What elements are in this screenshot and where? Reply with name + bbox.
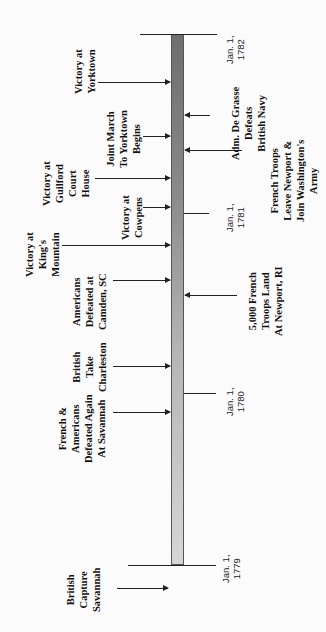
tick-label-1780: Jan. 1, 1780 — [224, 387, 246, 416]
tick-1782-line — [140, 34, 217, 35]
arrow-guilford — [95, 178, 170, 179]
arrow-kings-mountain — [62, 245, 170, 246]
arrow-camden — [113, 280, 170, 281]
event-joint-march: Joint March To Yorktown Begins — [104, 110, 143, 168]
arrow-de-grasse — [185, 115, 210, 116]
timeline-bar — [171, 34, 184, 565]
event-charleston: British Take Charleston — [70, 342, 109, 392]
event-victory-guilford: Victory at Guilford Court House — [40, 161, 92, 206]
event-savannah-again: French & Americans Defeated Again At Sav… — [56, 394, 108, 463]
arrow-capture-savannah — [117, 588, 168, 589]
event-camden: Americans Defeated at Camden, SC — [70, 273, 109, 330]
arrow-joint-march — [143, 136, 170, 137]
arrow-yorktown — [98, 82, 170, 83]
event-capture-savannah: British Capture Savannah — [64, 568, 103, 612]
tick-1781-line — [184, 213, 209, 214]
tick-label-1782: Jan. 1, 1782 — [224, 35, 246, 64]
event-de-grasse: Adm. De Grasse Defeats British Navy — [229, 87, 268, 160]
tick-1780-line — [184, 393, 216, 394]
event-french-leave-newport: French Troops Leave Newport & Join Washi… — [268, 140, 320, 222]
arrow-savannah-again — [113, 412, 170, 413]
arrow-cowpens — [143, 207, 170, 208]
tick-label-1781: Jan. 1, 1781 — [224, 203, 246, 232]
tick-1779-line — [128, 565, 216, 566]
arrow-french-land-newport — [185, 295, 237, 296]
event-victory-cowpens: Victory at Cowpens — [119, 195, 145, 240]
event-victory-kings-mountain: Victory at King's Mountain — [23, 232, 62, 277]
event-victory-yorktown: Victory at Yorktown — [72, 49, 98, 94]
event-french-land-newport: 5,000 French Troops Land At Newport, RI — [246, 266, 285, 336]
tick-label-1779: Jan. 1, 1779 — [220, 554, 242, 583]
arrow-charleston — [113, 366, 170, 367]
